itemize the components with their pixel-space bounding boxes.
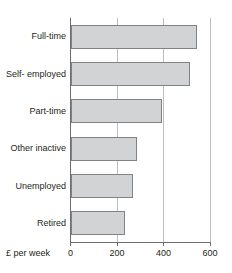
gridline-600 [210,18,211,242]
x-tick-0 [70,242,71,246]
x-tick-label-400: 400 [156,248,171,259]
category-label-retired: Retired [0,218,66,229]
bar-chart: 0200400600 Full-timeSelf- employedPart-t… [0,0,232,273]
category-label-part-time: Part-time [0,106,66,117]
bar-part-time [71,99,162,123]
bar-self-employed [71,62,190,86]
x-tick-600 [210,242,211,246]
x-tick-label-0: 0 [68,248,73,259]
category-label-unemployed: Unemployed [0,181,66,192]
x-axis-line [70,242,211,243]
bar-other-inactive [71,137,138,161]
bar-retired [71,211,125,235]
bar-full-time [71,25,198,49]
bar-unemployed [71,174,134,198]
category-label-self-employed: Self- employed [0,69,66,80]
gridline-400 [163,18,164,242]
category-label-other-inactive: Other inactive [0,143,66,154]
x-tick-label-200: 200 [109,248,124,259]
x-tick-400 [163,242,164,246]
gridline-200 [117,18,118,242]
x-tick-label-600: 600 [202,248,217,259]
x-axis-label: £ per week [6,248,50,259]
category-label-full-time: Full-time [0,31,66,42]
plot-area [71,18,211,242]
x-tick-200 [117,242,118,246]
